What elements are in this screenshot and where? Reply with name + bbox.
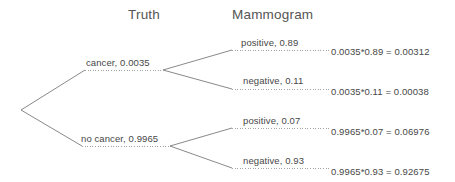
edge-root-to-no-cancer — [21, 110, 82, 146]
edge-root-to-cancer — [21, 70, 85, 110]
edge-no-cancer-to-positive — [170, 128, 232, 146]
node-label-cancer-positive: positive, 0.89 — [241, 37, 298, 48]
node-label-no-cancer-negative: negative, 0.93 — [243, 155, 304, 166]
joint-probability-cancer-negative: 0.0035*0.11 = 0.00038 — [331, 86, 429, 97]
probability-tree-diagram: Truth Mammogram cancer, 0.0035 no cancer… — [0, 0, 455, 182]
node-label-no-cancer: no cancer, 0.9965 — [81, 133, 158, 144]
node-label-no-cancer-positive: positive, 0.07 — [243, 115, 300, 126]
edge-cancer-to-positive — [163, 50, 232, 70]
column-heading-truth: Truth — [128, 7, 160, 22]
edge-cancer-to-negative — [163, 70, 232, 89]
node-label-cancer: cancer, 0.0035 — [86, 57, 150, 68]
column-heading-mammogram: Mammogram — [232, 7, 313, 22]
joint-probability-no-cancer-positive: 0.9965*0.07 = 0.06976 — [331, 126, 430, 137]
node-label-cancer-negative: negative, 0.11 — [243, 75, 303, 86]
edge-no-cancer-to-negative — [170, 146, 232, 168]
joint-probability-cancer-positive: 0.0035*0.89 = 0.00312 — [331, 46, 430, 57]
joint-probability-no-cancer-negative: 0.9965*0.93 = 0.92675 — [331, 166, 430, 177]
